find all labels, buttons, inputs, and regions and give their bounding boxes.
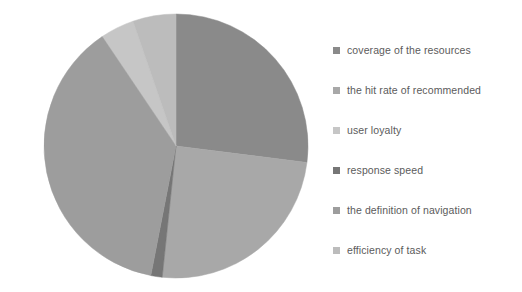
legend-item-efficiency-of-task[interactable]: efficiency of task [333, 230, 522, 270]
legend-item-label: user loyalty [347, 124, 401, 136]
legend-item-coverage-of-the-resources[interactable]: coverage of the resources [333, 30, 522, 70]
square-swatch-icon [333, 207, 340, 214]
pie-svg [0, 0, 330, 292]
square-swatch-icon [333, 247, 340, 254]
pie-slice-group [44, 14, 308, 278]
square-swatch-icon [333, 127, 340, 134]
legend-item-the-hit-rate-of-recommended[interactable]: the hit rate of recommended [333, 70, 522, 110]
legend-item-label: response speed [347, 164, 423, 176]
square-swatch-icon [333, 167, 340, 174]
pie-slice[interactable] [176, 14, 308, 163]
legend-item-label: the hit rate of recommended [347, 84, 481, 96]
pie-chart-figure: coverage of the resources the hit rate o… [0, 0, 522, 292]
legend-item-label: the definition of navigation [347, 204, 472, 216]
legend-item-response-speed[interactable]: response speed [333, 150, 522, 190]
legend-item-label: coverage of the resources [347, 44, 471, 56]
square-swatch-icon [333, 87, 340, 94]
chart-legend: coverage of the resources the hit rate o… [333, 30, 522, 270]
legend-item-user-loyalty[interactable]: user loyalty [333, 110, 522, 150]
pie-slice[interactable] [162, 146, 307, 278]
square-swatch-icon [333, 47, 340, 54]
legend-item-the-definition-of-navigation[interactable]: the definition of navigation [333, 190, 522, 230]
pie-plot-area [0, 0, 330, 292]
legend-item-label: efficiency of task [347, 244, 426, 256]
